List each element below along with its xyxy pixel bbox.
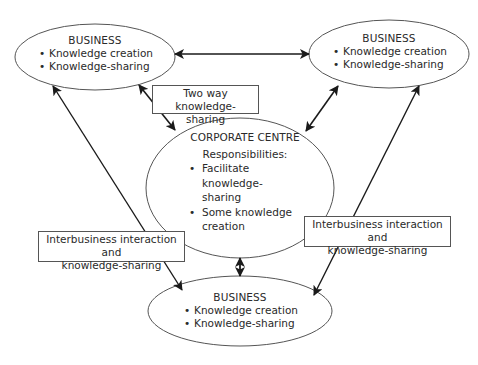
label-line: Interbusiness interaction and (307, 218, 448, 244)
business-top-right-title: BUSINESS (324, 32, 454, 45)
business-top-left-bullets: Knowledge creation Knowledge-sharing (37, 47, 153, 73)
label-line: knowledge-sharing (307, 244, 448, 257)
business-bottom-bullets: Knowledge creation Knowledge-sharing (182, 304, 298, 330)
bullet-item: Knowledge creation (182, 304, 298, 317)
bullet-item: Knowledge creation (37, 47, 153, 60)
corporate-centre-subtitle: Responsibilities: (180, 147, 310, 162)
bullet-item: Knowledge-sharing (37, 60, 153, 73)
bullet-item: Knowledge-sharing (331, 58, 447, 71)
business-bottom-node: BUSINESS Knowledge creation Knowledge-sh… (175, 291, 305, 330)
arrow-top-right-to-centre (306, 86, 338, 131)
corporate-centre-node: CORPORATE CENTRE Responsibilities: Facil… (180, 130, 310, 234)
bullet-line: Some knowledge (202, 206, 292, 218)
corporate-centre-bullets: Facilitate knowledge- sharing Some knowl… (186, 161, 310, 234)
interbusiness-right-label: Interbusiness interaction and knowledge-… (304, 216, 451, 247)
business-top-left-node: BUSINESS Knowledge creation Knowledge-sh… (30, 34, 160, 73)
label-line: Interbusiness interaction and (41, 233, 182, 259)
interbusiness-left-label: Interbusiness interaction and knowledge-… (38, 231, 185, 262)
bullet-line: Facilitate knowledge- (202, 162, 263, 189)
label-line: Two way knowledge- (155, 87, 256, 113)
business-top-left-title: BUSINESS (30, 34, 160, 47)
business-top-right-bullets: Knowledge creation Knowledge-sharing (331, 45, 447, 71)
label-line: knowledge-sharing (41, 259, 182, 272)
corporate-centre-title: CORPORATE CENTRE (180, 130, 310, 145)
label-line: sharing (155, 113, 256, 126)
bullet-item: Facilitate knowledge- sharing (186, 161, 310, 205)
two-way-sharing-label: Two way knowledge- sharing (152, 85, 259, 114)
bullet-item: Knowledge-sharing (182, 317, 298, 330)
business-top-right-node: BUSINESS Knowledge creation Knowledge-sh… (324, 32, 454, 71)
bullet-item: Some knowledge creation (186, 205, 310, 234)
bullet-item: Knowledge creation (331, 45, 447, 58)
business-bottom-title: BUSINESS (175, 291, 305, 304)
bullet-line: creation (202, 220, 245, 232)
bullet-line: sharing (202, 191, 241, 203)
